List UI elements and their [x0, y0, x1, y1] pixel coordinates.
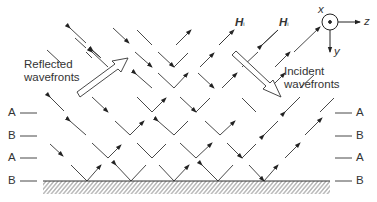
- axis-z-label: z: [364, 15, 370, 28]
- axis-x-label: x: [318, 3, 324, 16]
- layer-label-left-2: B: [8, 129, 16, 142]
- layer-label-left-1: A: [8, 106, 16, 119]
- wavefront-reflection-diagram: [0, 0, 377, 202]
- layer-ticks-left: [20, 113, 37, 181]
- layer-label-right-1: A: [356, 106, 364, 119]
- coordinate-axes-icon: [322, 14, 360, 52]
- layer-label-right-3: A: [356, 151, 364, 164]
- incident-label-line-1: Incident: [284, 65, 340, 78]
- reflected-label-line-2: wavefronts: [24, 71, 80, 84]
- reflected-direction-arrow: [77, 58, 128, 97]
- incident-direction-arrow: [232, 51, 281, 97]
- layer-ticks-right: [335, 113, 352, 181]
- layer-label-left-3: A: [8, 151, 16, 164]
- wavefront-segments: [47, 27, 334, 181]
- reflected-label-line-1: Reflected: [24, 58, 80, 71]
- layer-label-right-4: B: [356, 174, 364, 187]
- layer-label-right-2: B: [356, 129, 364, 142]
- incident-wavefronts-label: Incident wavefronts: [284, 65, 340, 91]
- incident-label-line-2: wavefronts: [284, 78, 340, 91]
- h-field-label-2: Hi: [279, 16, 289, 31]
- reflected-wavefronts-label: Reflected wavefronts: [24, 58, 80, 84]
- layer-label-left-4: B: [8, 174, 16, 187]
- axis-y-label: y: [334, 45, 340, 58]
- h-field-label-1: Hi: [235, 16, 245, 31]
- conducting-ground: [43, 181, 330, 194]
